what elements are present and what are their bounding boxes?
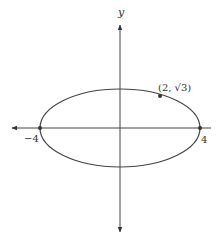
right-vertex-point — [198, 126, 202, 130]
point-label: (2, √3) — [158, 82, 191, 93]
labeled-point — [158, 94, 162, 98]
left-vertex-label: −4 — [24, 133, 39, 144]
ellipse-diagram: y −4 4 (2, √3) — [0, 0, 218, 244]
right-vertex-label: 4 — [201, 134, 207, 145]
y-axis-label: y — [117, 6, 125, 19]
left-vertex-point — [38, 126, 42, 130]
